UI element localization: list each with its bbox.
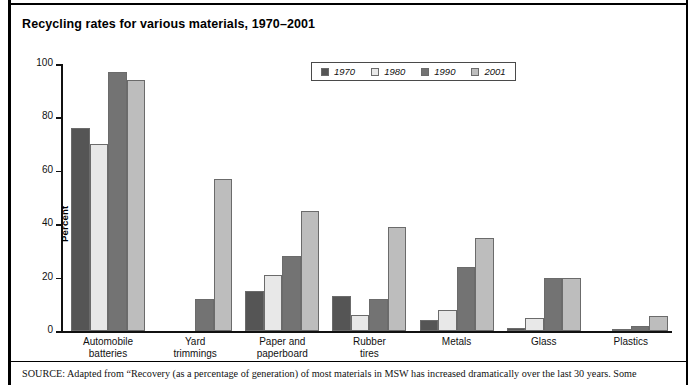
legend-swatch-2001 [471, 68, 479, 76]
bar[interactable] [457, 267, 476, 331]
bar[interactable] [562, 278, 581, 331]
legend-item[interactable]: 2001 [471, 66, 505, 77]
bar-group: Automobilebatteries [62, 64, 149, 331]
x-axis-category-line: Glass [500, 336, 587, 348]
bar[interactable] [301, 211, 320, 331]
y-tick-mark [56, 331, 62, 333]
x-axis-category-line: Rubber [326, 336, 413, 348]
y-axis-tick: 0 [0, 331, 62, 332]
x-axis-category-line: batteries [64, 348, 151, 360]
source-note: SOURCE: Adapted from “Recovery (as a per… [22, 367, 678, 380]
page-frame-top-rule [8, 3, 688, 5]
legend-swatch-1980 [371, 68, 379, 76]
bar[interactable] [544, 278, 563, 331]
bar-group: Yardtrimmings [149, 64, 236, 331]
x-axis-category-line: trimmings [152, 348, 239, 360]
x-axis-category-label: Automobilebatteries [64, 336, 151, 359]
y-tick-label: 100 [36, 57, 53, 68]
legend-item[interactable]: 1990 [421, 66, 455, 77]
bar[interactable] [332, 296, 351, 331]
x-axis-category-line: Metals [413, 336, 500, 348]
bar[interactable] [245, 291, 264, 331]
bar-group: Metals [411, 64, 498, 331]
x-axis-category-label: Plastics [587, 336, 674, 348]
x-axis-category-label: Paper andpaperboard [239, 336, 326, 359]
bar-group: Glass [498, 64, 585, 331]
bar[interactable] [525, 318, 544, 331]
bar[interactable] [420, 320, 439, 331]
x-axis-category-label: Rubbertires [326, 336, 413, 359]
plot-area: Percent 020406080100 Automobilebatteries… [62, 64, 672, 331]
legend-label: 2001 [484, 66, 505, 77]
bar[interactable] [369, 299, 388, 331]
bar[interactable] [214, 179, 233, 331]
x-axis-category-label: Glass [500, 336, 587, 348]
legend-label: 1970 [334, 66, 355, 77]
y-tick-label: 60 [42, 164, 53, 175]
y-tick-label: 40 [42, 217, 53, 228]
bar[interactable] [475, 238, 494, 331]
legend-label: 1990 [434, 66, 455, 77]
bar[interactable] [127, 80, 146, 331]
y-axis-tick: 80 [0, 117, 62, 118]
page-frame-left-rule [8, 0, 11, 385]
y-tick-label: 80 [42, 110, 53, 121]
legend-swatch-1990 [421, 68, 429, 76]
bar[interactable] [388, 227, 407, 331]
bar[interactable] [71, 128, 90, 331]
bar[interactable] [612, 329, 631, 331]
x-axis-category-line: Automobile [64, 336, 151, 348]
y-axis-tick: 40 [0, 224, 62, 225]
x-axis-category-line: tires [326, 348, 413, 360]
bar[interactable] [649, 316, 668, 331]
bar[interactable] [631, 326, 650, 331]
bar-group: Rubbertires [323, 64, 410, 331]
x-axis-category-line: Yard [152, 336, 239, 348]
y-tick-label: 20 [42, 271, 53, 282]
figure-container: Recycling rates for various materials, 1… [0, 0, 694, 385]
source-divider-rule [11, 361, 686, 362]
legend-item[interactable]: 1980 [371, 66, 405, 77]
legend-label: 1980 [384, 66, 405, 77]
y-axis-tick: 20 [0, 278, 62, 279]
y-tick-label: 0 [47, 324, 53, 335]
x-axis-category-label: Metals [413, 336, 500, 348]
bar[interactable] [351, 315, 370, 331]
source-kicker: SOURCE: [22, 368, 65, 379]
bar[interactable] [438, 310, 457, 331]
x-axis-category-line: Paper and [239, 336, 326, 348]
bar[interactable] [108, 72, 127, 331]
chart-legend: 1970198019902001 [311, 62, 516, 81]
bar[interactable] [90, 144, 109, 331]
x-axis-category-line: Plastics [587, 336, 674, 348]
chart-title: Recycling rates for various materials, 1… [22, 17, 315, 31]
source-text: Adapted from “Recovery (as a percentage … [65, 368, 637, 379]
bar[interactable] [507, 328, 526, 331]
x-axis-category-line: paperboard [239, 348, 326, 360]
page-frame-right-rule [686, 0, 688, 385]
bar[interactable] [282, 256, 301, 331]
x-axis-line [62, 331, 672, 333]
x-axis-category-label: Yardtrimmings [152, 336, 239, 359]
bar-group: Plastics [585, 64, 672, 331]
bar[interactable] [195, 299, 214, 331]
bar[interactable] [264, 275, 283, 331]
legend-swatch-1970 [321, 68, 329, 76]
y-axis-tick: 60 [0, 171, 62, 172]
y-axis-tick: 100 [0, 64, 62, 65]
bar-group: Paper andpaperboard [236, 64, 323, 331]
legend-item[interactable]: 1970 [321, 66, 355, 77]
